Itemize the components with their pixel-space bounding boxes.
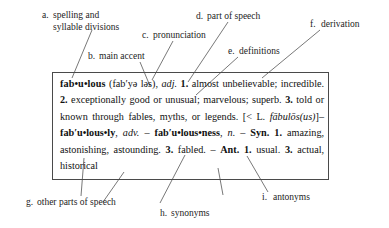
antonym-1-text: usual. — [256, 144, 280, 155]
run-on-form-2: fab′u•lous•ness — [154, 127, 220, 138]
dash-4: – — [211, 144, 216, 155]
sense-1-number: 1. — [181, 78, 189, 89]
derivation-open: [< L. — [243, 111, 270, 122]
callout-h-letter: h. — [160, 208, 171, 220]
dictionary-entry-text: fab•u•lous (fab′yə ləs), adj. 1. almost … — [60, 76, 324, 174]
derivation-latin: fābulōs(us) — [270, 111, 316, 122]
callout-h: h.synonyms — [160, 208, 210, 220]
callout-c: c.pronunciation — [142, 30, 206, 42]
callout-i-label: antonyms — [273, 192, 310, 202]
callout-d-letter: d. — [196, 11, 207, 23]
run-on-form-1: fab′u•lous•ly — [60, 127, 115, 138]
callout-i-letter: i. — [262, 192, 273, 204]
dash-3: – — [240, 127, 245, 138]
callout-c-letter: c. — [142, 30, 153, 42]
callout-e-label: definitions — [239, 46, 280, 56]
run-on-1-part-of-speech: adv. — [123, 127, 140, 138]
antonym-3-number: 3. — [285, 144, 293, 155]
antonyms-label: Ant. — [220, 144, 239, 155]
callout-a-label: spelling and — [53, 10, 99, 20]
callout-b: b.main accent — [88, 51, 145, 63]
dictionary-entry-diagram: a.spelling and syllable divisions b.main… — [0, 0, 389, 228]
callout-g-label: other parts of speech — [37, 197, 116, 207]
synonym-3-number: 3. — [166, 144, 174, 155]
callout-a-label2: syllable divisions — [53, 22, 119, 34]
entry-headword: fab•u•lous — [60, 78, 106, 89]
callout-f: f.derivation — [310, 19, 360, 31]
dash-1: – — [319, 111, 324, 122]
callout-g-letter: g. — [26, 197, 37, 209]
sense-2-text: exceptionally good or unusual; marvelous… — [71, 94, 282, 105]
callout-b-letter: b. — [88, 51, 99, 63]
antonym-1-number: 1. — [244, 144, 252, 155]
synonym-1-number: 1. — [274, 127, 282, 138]
callout-f-letter: f. — [310, 19, 321, 31]
entry-part-of-speech: adj. — [162, 78, 178, 89]
sense-3-number: 3. — [285, 94, 293, 105]
callout-b-label: main accent — [99, 51, 145, 61]
sense-2-number: 2. — [60, 94, 68, 105]
callout-e-letter: e. — [228, 46, 239, 58]
callout-c-label: pronunciation — [153, 30, 206, 40]
callout-g: g.other parts of speech — [26, 197, 116, 209]
synonym-3-text: fabled. — [178, 144, 206, 155]
callout-a-letter: a. — [42, 10, 53, 22]
synonyms-label: Syn. — [250, 127, 269, 138]
callout-e: e.definitions — [228, 46, 280, 58]
entry-pronunciation: (fab′yə ləs) — [109, 78, 155, 89]
callout-i: i.antonyms — [262, 192, 310, 204]
sense-1-text: almost unbelievable; incredible. — [192, 78, 324, 89]
callout-d: d.part of speech — [196, 11, 260, 23]
callout-h-label: synonyms — [171, 208, 210, 218]
callout-a: a.spelling and syllable divisions — [42, 10, 119, 33]
callout-d-label: part of speech — [207, 11, 260, 21]
run-on-2-part-of-speech: n. — [228, 127, 236, 138]
callout-f-label: derivation — [321, 19, 360, 29]
dash-2: – — [144, 127, 149, 138]
